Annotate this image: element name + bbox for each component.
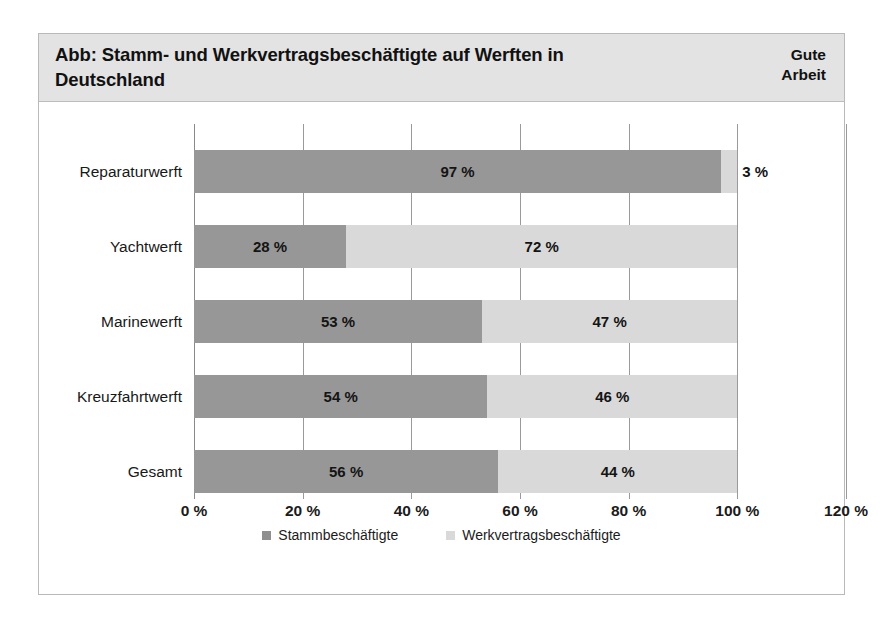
bar-value-label: 47 %: [593, 313, 627, 330]
gridline-120: [846, 124, 847, 499]
legend-label: Werkvertragsbeschäftigte: [462, 527, 620, 543]
bar-value-label: 53 %: [321, 313, 355, 330]
x-axis-tick-label: 0 %: [181, 502, 208, 520]
x-axis-tick-label: 60 %: [502, 502, 537, 520]
x-axis-tick-label: 100 %: [715, 502, 759, 520]
figure-title: Abb: Stamm- und Werkvertragsbeschäftigte…: [39, 34, 655, 92]
x-axis-tick-label: 40 %: [394, 502, 429, 520]
chart-area: Reparaturwerft97 %3 %Yachtwerft28 %72 %M…: [39, 102, 844, 594]
bar-value-label: 54 %: [324, 388, 358, 405]
figure-container: Abb: Stamm- und Werkvertragsbeschäftigte…: [38, 33, 845, 595]
x-axis-tick-label: 20 %: [285, 502, 320, 520]
category-label: Yachtwerft: [110, 225, 182, 268]
bar-segment-stamm: 56 %: [194, 450, 498, 493]
x-axis-tick-label: 120 %: [824, 502, 868, 520]
category-label: Kreuzfahrtwerft: [77, 375, 182, 418]
gute-arbeit-logo: Gute Arbeit: [781, 34, 844, 85]
bar-segment-stamm: 97 %: [194, 150, 721, 193]
x-axis-tick-label: 80 %: [611, 502, 646, 520]
bar-value-label: 44 %: [601, 463, 635, 480]
plot-area: Reparaturwerft97 %3 %Yachtwerft28 %72 %M…: [194, 124, 846, 499]
category-label: Reparaturwerft: [79, 150, 182, 193]
bar-value-label: 28 %: [253, 238, 287, 255]
bar-row: Marinewerft53 %47 %: [194, 300, 737, 343]
category-label: Marinewerft: [101, 300, 182, 343]
bar-segment-stamm: 28 %: [194, 225, 346, 268]
bar-segment-werkvertrag: 46 %: [487, 375, 737, 418]
bar-row: Gesamt56 %44 %: [194, 450, 737, 493]
bar-segment-stamm: 53 %: [194, 300, 482, 343]
legend-swatch-icon: [446, 531, 455, 540]
bar-value-label: 56 %: [329, 463, 363, 480]
gridline-100: [737, 124, 738, 499]
legend-item: Stammbeschäftigte: [262, 527, 398, 543]
bar-row: Reparaturwerft97 %3 %: [194, 150, 737, 193]
legend-swatch-icon: [262, 531, 271, 540]
bar-segment-werkvertrag: 44 %: [498, 450, 737, 493]
bar-value-label: 97 %: [440, 163, 474, 180]
bar-segment-werkvertrag: 72 %: [346, 225, 737, 268]
chart-legend: StammbeschäftigteWerkvertragsbeschäftigt…: [39, 527, 844, 543]
figure-header: Abb: Stamm- und Werkvertragsbeschäftigte…: [39, 34, 844, 102]
legend-label: Stammbeschäftigte: [278, 527, 398, 543]
bar-segment-stamm: 54 %: [194, 375, 487, 418]
bar-value-label: 46 %: [595, 388, 629, 405]
bar-segment-werkvertrag: 3 %: [721, 150, 737, 193]
bar-row: Yachtwerft28 %72 %: [194, 225, 737, 268]
bar-row: Kreuzfahrtwerft54 %46 %: [194, 375, 737, 418]
bar-value-label: 72 %: [525, 238, 559, 255]
bar-value-label: 3 %: [742, 163, 768, 180]
legend-item: Werkvertragsbeschäftigte: [446, 527, 620, 543]
bar-segment-werkvertrag: 47 %: [482, 300, 737, 343]
category-label: Gesamt: [128, 450, 182, 493]
